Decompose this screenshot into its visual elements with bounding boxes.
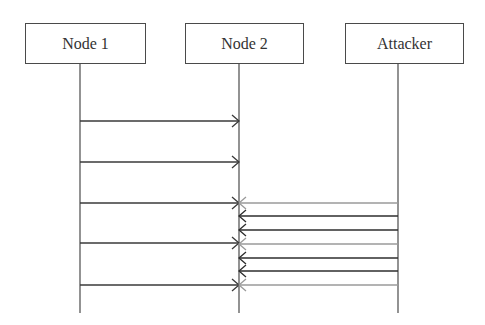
- actor-node-1-label: Node 1: [62, 35, 109, 53]
- actor-node-2: Node 2: [185, 23, 304, 64]
- actor-attacker: Attacker: [345, 23, 464, 64]
- actor-node-2-label: Node 2: [221, 35, 268, 53]
- actor-node-1: Node 1: [25, 23, 146, 64]
- actor-attacker-label: Attacker: [377, 35, 432, 53]
